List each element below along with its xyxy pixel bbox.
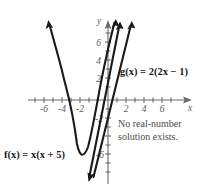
line-g-curve xyxy=(94,27,131,178)
line-g-arrow-icon xyxy=(127,21,135,29)
graph-figure: -6 -4 -2 2 4 6 6 4 2 -2 -6 x y xyxy=(0,0,206,186)
y-tick-label-4: 4 xyxy=(96,56,101,66)
note-line-2: solution exists. xyxy=(118,131,178,142)
x-tick-label--6: -6 xyxy=(40,104,48,114)
g-equation-label: g(x) = 2(2x − 1) xyxy=(120,66,188,78)
y-axis-label: y xyxy=(96,16,102,26)
x-tick-label-2: 2 xyxy=(124,104,129,114)
note-line-1: No real-number xyxy=(118,118,182,129)
x-tick-label--2: -2 xyxy=(76,104,84,114)
x-tick-label-6: 6 xyxy=(160,104,165,114)
x-axis-label: x xyxy=(187,103,193,113)
x-tick-label-4: 4 xyxy=(142,104,147,114)
line-second-curve xyxy=(90,27,120,176)
x-tick-label--4: -4 xyxy=(58,104,66,114)
f-equation-label: f(x) = x(x + 5) xyxy=(4,149,65,161)
line-second-group xyxy=(88,22,124,183)
coordinate-plane-svg: -6 -4 -2 2 4 6 6 4 2 -2 -6 x y xyxy=(0,0,206,186)
y-tick-label-6: 6 xyxy=(96,38,101,48)
